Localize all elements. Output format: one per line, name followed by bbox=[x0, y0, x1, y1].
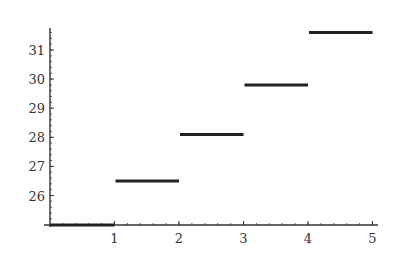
y-tick-label: 30 bbox=[28, 72, 45, 87]
x-tick-label: 3 bbox=[239, 231, 247, 246]
x-tick-label: 5 bbox=[368, 231, 376, 246]
step-chart: 262728293031 12345 bbox=[0, 0, 397, 263]
y-tick-label: 28 bbox=[28, 130, 45, 145]
y-tick-label: 27 bbox=[28, 159, 45, 174]
y-tick-label: 31 bbox=[28, 43, 45, 58]
step-segments bbox=[50, 33, 373, 225]
x-tick-label: 4 bbox=[304, 231, 312, 246]
y-axis: 262728293031 bbox=[28, 28, 54, 227]
y-tick-label: 26 bbox=[28, 189, 45, 204]
y-tick-label: 29 bbox=[28, 101, 45, 116]
x-tick-label: 1 bbox=[110, 231, 118, 246]
x-tick-label: 2 bbox=[175, 231, 183, 246]
